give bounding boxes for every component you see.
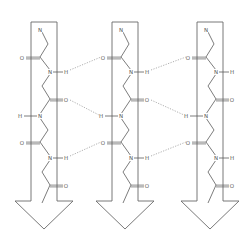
atom-o: O [20,55,25,61]
atom-n: N [119,113,123,119]
atom-n: N [214,155,218,161]
atom-h: H [64,155,68,161]
atom-h: H [145,69,149,75]
atom-o: O [101,140,106,146]
atom-o: O [230,97,235,103]
atom-n: N [129,155,133,161]
atom-h: H [145,155,149,161]
atom-h: H [99,113,103,119]
beta-sheet-diagram: NONHOHNONHONONHOHNONHONONHOHNONHO [0,0,251,241]
atom-n: N [214,69,218,75]
atom-o: O [64,97,69,103]
atom-h: H [230,69,234,75]
strand-arrows [15,22,239,229]
atom-o: O [186,140,191,146]
atom-o: O [64,183,69,189]
hydrogen-bond [151,100,184,115]
atom-n: N [204,27,208,33]
atom-o: O [145,183,150,189]
atom-h: H [64,69,68,75]
atom-n: N [119,27,123,33]
atom-n: N [38,113,42,119]
atom-o: O [145,97,150,103]
atom-h: H [18,113,22,119]
atom-o: O [20,140,25,146]
atom-o: O [230,183,235,189]
atom-o: O [101,55,106,61]
atom-n: N [204,113,208,119]
hydrogen-bond [70,100,99,115]
hydrogen-bond [70,57,101,70]
hydrogen-bond [70,142,101,156]
atom-h: H [230,155,234,161]
atom-n: N [48,155,52,161]
atom-n: N [48,69,52,75]
atom-n: N [38,27,42,33]
atom-n: N [129,69,133,75]
atom-h: H [184,113,188,119]
hydrogen-bond [151,142,186,156]
hydrogen-bond [151,57,186,70]
atom-o: O [186,55,191,61]
